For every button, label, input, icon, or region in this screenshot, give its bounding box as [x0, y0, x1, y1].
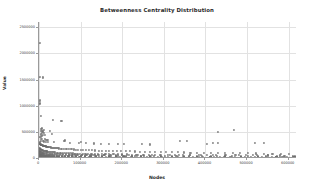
data-point — [192, 156, 194, 158]
data-point — [202, 156, 204, 158]
data-point — [134, 151, 136, 153]
data-point — [51, 133, 53, 135]
data-point — [182, 156, 184, 158]
x-tick-mark — [204, 158, 205, 160]
data-point — [39, 42, 41, 44]
plot-area — [38, 22, 296, 158]
data-point — [109, 156, 111, 158]
data-point — [146, 156, 148, 158]
data-point — [183, 151, 185, 153]
gridline-horizontal — [39, 106, 296, 107]
x-tick-label: 0 — [37, 161, 39, 165]
data-point — [286, 156, 288, 158]
data-point — [144, 151, 146, 153]
data-point — [154, 151, 156, 153]
y-tick-label: 2000000 — [2, 51, 35, 55]
data-point — [115, 156, 117, 158]
data-point — [94, 156, 96, 158]
chart-title: Betweenness Centrality Distribution — [0, 7, 314, 13]
gridline-vertical — [205, 22, 206, 157]
data-point — [136, 156, 138, 158]
data-point — [206, 143, 208, 145]
gridline-horizontal — [39, 132, 296, 133]
data-point — [217, 142, 219, 144]
data-point — [130, 156, 132, 158]
data-point — [52, 119, 54, 121]
data-point — [85, 149, 87, 151]
data-point — [150, 156, 152, 158]
x-tick-mark — [163, 158, 164, 160]
data-point — [167, 156, 169, 158]
data-point — [108, 143, 110, 145]
data-point — [82, 149, 84, 151]
data-point — [69, 142, 71, 144]
data-point — [250, 156, 252, 158]
data-point — [139, 151, 141, 153]
data-point — [149, 151, 151, 153]
data-point — [219, 156, 221, 158]
data-point — [79, 156, 81, 158]
x-tick-mark — [121, 158, 122, 160]
data-point — [281, 156, 283, 158]
gridline-horizontal — [39, 80, 296, 81]
data-point — [46, 141, 48, 143]
x-tick-label: 400000 — [198, 161, 211, 165]
data-point — [171, 156, 173, 158]
data-point — [105, 150, 107, 152]
data-point — [91, 149, 93, 151]
chart-figure: Betweenness Centrality Distribution 0500… — [0, 0, 314, 189]
x-tick-mark — [246, 158, 247, 160]
x-tick-mark — [80, 158, 81, 160]
data-point — [39, 76, 41, 78]
data-point — [188, 156, 190, 158]
data-point — [171, 151, 173, 153]
data-point — [209, 156, 211, 158]
x-tick-label: 600000 — [281, 161, 294, 165]
data-point — [108, 150, 110, 152]
data-point — [98, 156, 100, 158]
data-point — [122, 156, 124, 158]
data-point — [125, 150, 127, 152]
data-point — [212, 142, 214, 144]
data-point — [97, 150, 99, 152]
data-point — [240, 156, 242, 158]
y-tick-label: 1000000 — [2, 104, 35, 108]
data-point — [149, 144, 151, 146]
data-point — [60, 120, 62, 122]
data-point — [112, 150, 114, 152]
data-point — [84, 156, 86, 158]
data-point — [263, 142, 265, 144]
gridline-horizontal — [39, 27, 296, 28]
y-tick-mark — [36, 158, 38, 159]
data-point — [77, 156, 79, 158]
data-point — [198, 156, 200, 158]
data-point — [67, 156, 69, 158]
data-point — [153, 155, 155, 157]
data-point — [88, 156, 90, 158]
data-point — [53, 156, 55, 158]
x-tick-label: 200000 — [115, 161, 128, 165]
data-point — [261, 156, 263, 158]
data-point — [57, 156, 59, 158]
data-point — [129, 150, 131, 152]
data-point — [42, 156, 44, 158]
data-point — [157, 156, 159, 158]
data-point — [254, 142, 256, 144]
data-point — [229, 156, 231, 158]
x-tick-label: 500000 — [239, 161, 252, 165]
data-point — [275, 156, 277, 158]
data-point — [244, 156, 246, 158]
data-point — [234, 156, 236, 158]
data-point — [213, 156, 215, 158]
data-point — [40, 115, 42, 117]
data-point — [85, 142, 87, 144]
data-point — [217, 152, 219, 154]
gridline-vertical — [81, 22, 82, 157]
data-point — [141, 143, 143, 145]
data-point — [63, 156, 65, 158]
data-point — [101, 150, 103, 152]
data-point — [216, 155, 218, 157]
data-point — [179, 140, 181, 142]
data-point — [100, 143, 102, 145]
data-point — [159, 151, 161, 153]
